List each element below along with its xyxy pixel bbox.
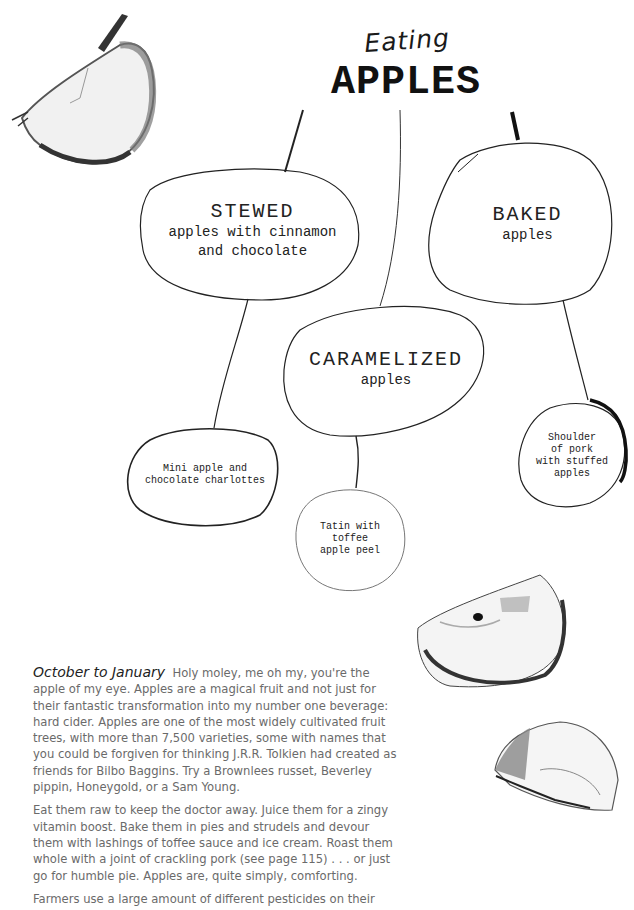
apple-slice-illustration xyxy=(418,575,565,687)
apple-half-illustration xyxy=(495,722,618,810)
bubble-tatin-line3: apple peel xyxy=(300,545,400,557)
bubble-pork-line1: Shoulder xyxy=(522,432,622,444)
bubble-pork: Shoulder of pork with stuffed apples xyxy=(522,432,622,480)
bubble-caramelized-title: CARAMELIZED xyxy=(286,348,486,371)
article-body: October to January Holy moley, me oh my,… xyxy=(33,664,403,910)
page-title: APPLES xyxy=(318,60,494,105)
bubble-stewed-line2: and chocolate xyxy=(145,242,360,261)
article-paragraph-3: Farmers use a large amount of different … xyxy=(33,891,403,907)
bubble-caramelized: CARAMELIZED apples xyxy=(286,348,486,390)
bubble-stewed: STEWED apples with cinnamon and chocolat… xyxy=(145,200,360,261)
bubble-pork-line4: apples xyxy=(522,468,622,480)
bubble-caramelized-line1: apples xyxy=(286,371,486,390)
bubble-pork-line2: of pork xyxy=(522,444,622,456)
bubble-charlottes-line1: Mini apple and xyxy=(125,463,285,475)
bubble-pork-line3: with stuffed xyxy=(522,456,622,468)
bubble-stewed-title: STEWED xyxy=(145,200,360,223)
bubble-stewed-line1: apples with cinnamon xyxy=(145,223,360,242)
bubble-baked-line1: apples xyxy=(440,226,615,245)
season-label: October to January xyxy=(33,664,165,680)
bubble-charlottes: Mini apple and chocolate charlottes xyxy=(125,463,285,487)
article-paragraph-2: Eat them raw to keep the doctor away. Ju… xyxy=(33,802,403,883)
bubble-tatin-line1: Tatin with xyxy=(300,521,400,533)
paragraph-1-text: Holy moley, me oh my, you're the apple o… xyxy=(33,666,396,794)
bubble-tatin-line2: toffee xyxy=(300,533,400,545)
bubble-baked: BAKED apples xyxy=(440,203,615,245)
apple-wedge-illustration xyxy=(12,14,154,163)
title-script: Eating xyxy=(351,22,463,59)
article-paragraph-1: October to January Holy moley, me oh my,… xyxy=(33,664,403,795)
bubble-charlottes-line2: chocolate charlottes xyxy=(125,475,285,487)
bubble-baked-title: BAKED xyxy=(440,203,615,226)
bubble-tatin: Tatin with toffee apple peel xyxy=(300,521,400,557)
